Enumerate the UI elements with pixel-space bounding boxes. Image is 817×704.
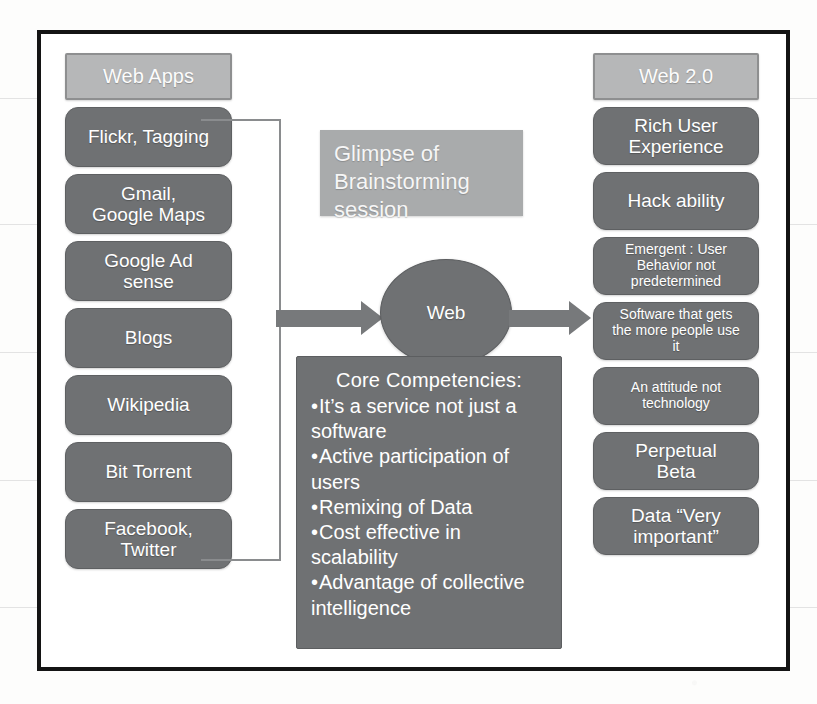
right-item-rich-user-experience[interactable]: Rich User Experience — [593, 107, 759, 165]
core-bullet: It’s a service not just a software — [311, 394, 547, 444]
right-item-hack-ability[interactable]: Hack ability — [593, 172, 759, 230]
core-bullet: Advantage of collective intelligence — [311, 570, 547, 620]
right-column-header: Web 2.0 — [593, 53, 759, 100]
outbound-arrow-shaft — [509, 310, 569, 327]
core-competencies-panel: Core Competencies: It’s a service not ju… — [296, 356, 562, 649]
left-column-header: Web Apps — [65, 53, 232, 100]
core-competencies-list: It’s a service not just a software Activ… — [311, 394, 547, 621]
scanned-page: Web Apps Flickr, Tagging Gmail, Google M… — [0, 0, 817, 704]
right-item-data-very-important[interactable]: Data “Very important” — [593, 497, 759, 555]
right-item-emergent-user-behavior[interactable]: Emergent : User Behavior not predetermin… — [593, 237, 759, 295]
right-item-attitude-not-technology[interactable]: An attitude not technology — [593, 367, 759, 425]
outbound-arrow-head — [569, 301, 591, 335]
right-item-perpetual-beta[interactable]: Perpetual Beta — [593, 432, 759, 490]
brainstorm-note: Glimpse of Brainstorming session — [320, 130, 523, 216]
inbound-arrow-shaft — [276, 310, 361, 327]
web-node[interactable]: Web — [380, 259, 512, 366]
core-bullet: Remixing of Data — [311, 495, 547, 520]
core-bullet: Active participation of users — [311, 444, 547, 494]
core-bullet: Cost effective in scalability — [311, 520, 547, 570]
slide-frame: Web Apps Flickr, Tagging Gmail, Google M… — [37, 30, 790, 671]
core-competencies-title: Core Competencies: — [311, 369, 547, 392]
left-stack-connector — [201, 119, 281, 561]
right-item-software-that-gets-better[interactable]: Software that gets the more people use i… — [593, 302, 759, 360]
